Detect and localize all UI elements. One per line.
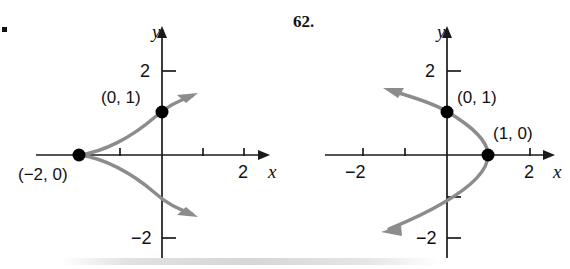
right-y-tick-label-2: 2 [425,62,435,80]
left-coord-label-neg2-0: (−2, 0) [18,166,68,183]
left-y-axis-label: y [152,22,160,41]
right-x-axis-arrowhead [543,150,555,160]
left-x-axis-label: x [268,162,276,181]
right-curve-arrowhead-upper [383,88,404,98]
left-point-0-1 [156,106,169,119]
left-coord-label-0-1: (0, 1) [101,89,141,106]
right-x-tick-label-neg2: −2 [345,163,366,181]
left-y-tick-label-neg2: −2 [131,229,152,247]
left-x-tick-label-2: 2 [238,163,248,181]
right-x-axis-label: x [553,162,561,181]
right-coord-label-0-1: (0, 1) [457,89,497,106]
right-y-tick-label-neg2: −2 [416,229,437,247]
plot-right-parabola: y x 2 −2 −2 2 (0, 1) (1, 0) [285,0,570,269]
page-bottom-artifact [60,258,440,265]
right-parabola-curve [389,91,488,229]
left-y-tick-label-2: 2 [140,62,150,80]
left-x-axis-arrowhead [258,150,270,160]
right-y-axis-label: y [437,22,445,41]
right-coord-label-1-0: (1, 0) [493,125,533,142]
right-x-tick-label-2: 2 [524,163,534,181]
left-point-neg2-0 [73,149,86,162]
right-point-1-0 [482,149,495,162]
plot-left-parabola: y x 2 −2 2 (0, 1) (−2, 0) [0,0,285,269]
figure-page: 62. y x 2 [0,0,570,269]
right-point-0-1 [441,106,454,119]
